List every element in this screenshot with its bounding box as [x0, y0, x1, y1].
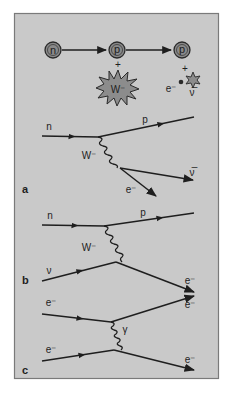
electron-label-a: e⁻: [126, 184, 137, 195]
w-boson-burst-label: W⁻: [111, 84, 125, 95]
proton-label-1: p: [114, 43, 120, 55]
proton-label-2: p: [179, 43, 185, 55]
panel-label-b: b: [22, 274, 29, 286]
neutron-line-a: [42, 136, 98, 137]
neutron-label-b: n: [47, 210, 53, 221]
electron-out-label-2-c: e⁻: [185, 354, 196, 365]
plus-sign-1: +: [115, 59, 121, 70]
proton-label-b: p: [140, 207, 146, 218]
electron-label-top: e⁻: [166, 83, 177, 94]
feynman-diagram-figure: n p p + W⁻ + e⁻ ν̅: [0, 0, 229, 395]
neutron-particle: n: [45, 42, 61, 58]
neutrino-label-b: ν: [47, 265, 52, 276]
neutron-label: n: [50, 44, 56, 56]
neutron-line-b: [42, 225, 104, 226]
electron-label-b: e⁻: [185, 275, 196, 286]
proton-particle-1: p: [109, 42, 125, 58]
proton-particle-2: p: [174, 42, 190, 58]
electron-in-label-1-c: e⁻: [46, 297, 57, 308]
electron-in-label-2-c: e⁻: [46, 344, 57, 355]
neutron-label-a: n: [46, 121, 52, 132]
w-boson-label-a: W⁻: [82, 150, 96, 161]
electron-out-label-1-c: e⁻: [185, 299, 196, 310]
photon-label-c: γ: [123, 324, 128, 335]
plus-sign-2: +: [182, 63, 188, 74]
electron-dot-icon: [179, 80, 184, 85]
panel-label-c: c: [22, 364, 28, 376]
panel-label-a: a: [22, 183, 29, 195]
proton-label-a: p: [142, 114, 148, 125]
w-boson-label-b: W⁻: [82, 242, 96, 253]
